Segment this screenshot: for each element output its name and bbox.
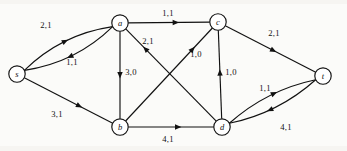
edge-label-t-d: 1,1 — [259, 83, 270, 93]
edge-label-d-a: 2,1 — [142, 36, 153, 46]
node-label-b: b — [118, 122, 122, 132]
edge-label-s-a: 2,1 — [40, 20, 51, 30]
edge-d-t — [229, 80, 315, 124]
flow-network-figure: sactbd 2,11,13,11,13,02,11,01,02,14,11,1… — [0, 0, 347, 151]
edge-t-d — [229, 80, 315, 124]
node-label-a: a — [118, 18, 122, 28]
edge-a-c — [128, 22, 210, 23]
edge-s-b — [24, 78, 112, 124]
edge-label-c-t: 2,1 — [268, 28, 279, 38]
node-a[interactable]: a — [112, 15, 128, 31]
node-c[interactable]: c — [210, 14, 226, 30]
edge-d-a — [126, 29, 217, 121]
edge-label-s-b: 3,1 — [51, 109, 62, 119]
arrow-head-icon-a-c — [173, 20, 179, 25]
edge-label-a-b: 3,0 — [125, 67, 136, 77]
edge-label-b-c: 1,0 — [190, 49, 201, 59]
node-s[interactable]: s — [9, 66, 25, 82]
edge-label-a-s: 1,1 — [66, 57, 77, 67]
edge-labels-layer: 2,11,13,11,13,02,11,01,02,14,11,14,1 — [40, 8, 291, 144]
edge-label-a-c: 1,1 — [162, 8, 173, 18]
edge-label-b-d: 4,1 — [162, 134, 173, 144]
node-t[interactable]: t — [315, 68, 331, 84]
edge-label-d-t: 4,1 — [280, 122, 291, 132]
arrow-head-icon-b-d — [175, 124, 181, 129]
arrow-head-icon-a-b — [117, 72, 122, 78]
graph-canvas: sactbd 2,11,13,11,13,02,11,01,02,14,11,1… — [0, 0, 347, 151]
node-d[interactable]: d — [214, 119, 230, 135]
arrow-head-icon-d-c — [217, 69, 222, 76]
node-label-c: c — [216, 17, 220, 27]
node-b[interactable]: b — [112, 119, 128, 135]
edge-label-d-c: 1,0 — [225, 67, 236, 77]
